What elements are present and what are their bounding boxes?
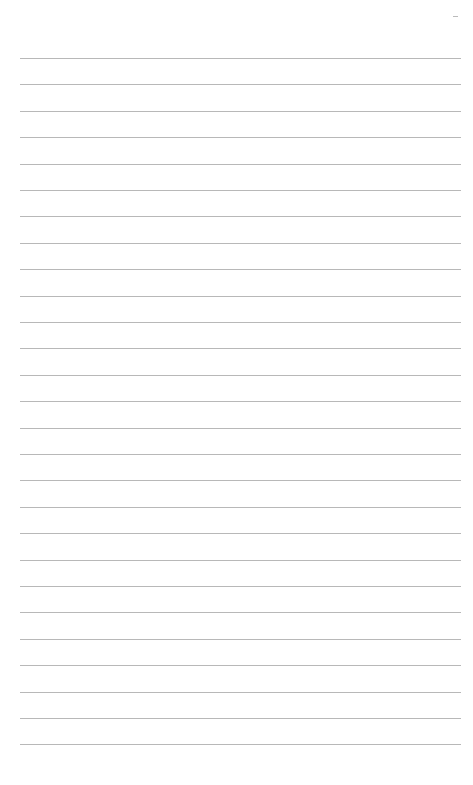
ruled-line xyxy=(20,111,461,112)
lined-paper-page xyxy=(0,0,473,785)
ruled-line xyxy=(20,665,461,666)
ruled-line xyxy=(20,639,461,640)
ruled-line xyxy=(20,454,461,455)
ruled-line xyxy=(20,243,461,244)
ruled-line xyxy=(20,428,461,429)
ruled-line xyxy=(20,137,461,138)
ruled-line xyxy=(20,164,461,165)
ruled-line xyxy=(20,480,461,481)
ruled-line xyxy=(20,586,461,587)
ruled-line xyxy=(20,744,461,745)
ruled-line xyxy=(20,58,461,59)
ruled-line xyxy=(20,322,461,323)
ruled-line xyxy=(20,533,461,534)
ruled-line xyxy=(20,348,461,349)
ruled-line xyxy=(20,216,461,217)
ruled-line xyxy=(20,507,461,508)
ruled-line xyxy=(20,612,461,613)
ruled-line xyxy=(20,401,461,402)
ruled-line xyxy=(20,84,461,85)
ruled-line xyxy=(20,692,461,693)
ruled-line xyxy=(20,296,461,297)
ruled-line xyxy=(20,269,461,270)
ruled-line xyxy=(20,718,461,719)
ruled-line xyxy=(20,560,461,561)
ruled-line xyxy=(20,190,461,191)
ruled-line xyxy=(20,375,461,376)
corner-mark xyxy=(453,16,458,17)
